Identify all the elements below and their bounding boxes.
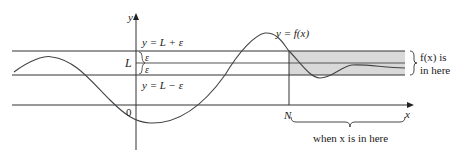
epsilon-lower-label: ε bbox=[145, 64, 149, 75]
origin-label: 0 bbox=[126, 106, 132, 118]
epsilon-n-diagram: y x 0 y = L + ε y = L − ε L ε ε y = f(x)… bbox=[0, 0, 458, 155]
x-axis-label: x bbox=[404, 108, 410, 120]
upper-line-label: y = L + ε bbox=[141, 36, 184, 48]
lower-line-label: y = L − ε bbox=[141, 79, 184, 91]
x-region-brace-icon bbox=[291, 117, 405, 127]
fx-region-brace-icon bbox=[410, 51, 417, 75]
limit-label: L bbox=[124, 56, 132, 70]
fx-region-label-line1: f(x) is bbox=[420, 51, 447, 64]
y-axis-arrow-icon bbox=[133, 13, 139, 20]
fx-region-label-line2: in here bbox=[420, 64, 450, 76]
curve-label: y = f(x) bbox=[275, 27, 309, 40]
x-region-label: when x is in here bbox=[313, 132, 388, 144]
epsilon-upper-label: ε bbox=[145, 52, 149, 63]
function-curve bbox=[14, 33, 405, 123]
y-axis-label: y bbox=[127, 11, 133, 23]
n-label: N bbox=[283, 109, 292, 121]
